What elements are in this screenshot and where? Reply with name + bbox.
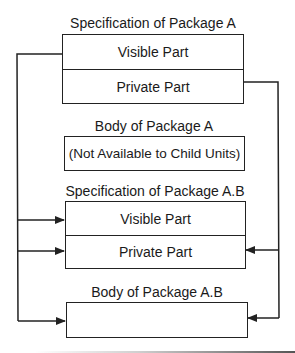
body-a-title: Body of Package A (64, 118, 244, 134)
body-ab-box (66, 302, 248, 338)
body-ab-title: Body of Package A.B (66, 284, 248, 300)
right-private-wire (244, 82, 279, 318)
left-visible-wire (17, 54, 65, 321)
body-ab-content (67, 303, 247, 337)
spec-ab-private-part: Private Part (66, 236, 245, 268)
spec-a-private-part: Private Part (63, 70, 243, 103)
spec-ab-visible-part: Visible Part (66, 202, 245, 235)
spec-ab-title: Specification of Package A.B (64, 183, 246, 199)
spec-a-visible-part: Visible Part (63, 35, 243, 69)
spec-a-box: Visible Part Private Part (62, 34, 244, 104)
body-a-content: (Not Available to Child Units) (65, 137, 244, 170)
spec-a-title: Specification of Package A (62, 15, 244, 31)
body-a-box: (Not Available to Child Units) (64, 136, 245, 171)
spec-ab-box: Visible Part Private Part (65, 201, 246, 269)
